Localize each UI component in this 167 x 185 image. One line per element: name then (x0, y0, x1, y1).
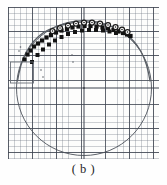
figure-panel: ( b ) (0, 0, 167, 185)
data-marker-square (94, 28, 98, 32)
data-marker-square (28, 48, 32, 52)
data-marker-circle-dot (59, 27, 61, 29)
data-marker-square (114, 31, 118, 35)
region-of-interest (11, 62, 34, 83)
data-marker-circle-dot (52, 30, 54, 32)
data-marker-dot (72, 61, 74, 63)
data-marker-square (101, 29, 105, 33)
data-marker-dot (40, 69, 42, 71)
data-marker-square (66, 32, 70, 36)
data-marker-square (47, 43, 51, 47)
data-marker-circle-dot (121, 29, 123, 31)
data-marker-square (41, 48, 45, 52)
data-marker-circle-dot (91, 22, 93, 24)
data-marker-square (60, 35, 64, 39)
data-marker-square (22, 57, 26, 61)
data-marker-square (32, 44, 36, 48)
data-marker-circle-dot (115, 26, 117, 28)
data-marker-dot (18, 50, 20, 52)
circle-center (83, 87, 85, 89)
data-marker-circle-dot (99, 23, 101, 25)
data-marker-dot (71, 54, 73, 56)
data-marker-circle-dot (83, 22, 85, 24)
figure-caption: ( b ) (0, 162, 167, 177)
data-marker-square (40, 38, 44, 42)
data-marker-square (108, 30, 112, 34)
data-marker-square (87, 28, 91, 32)
data-marker-circle-dot (75, 23, 77, 25)
data-marker-square (73, 30, 77, 34)
data-marker-circle-dot (67, 25, 69, 27)
data-marker-dot (20, 46, 22, 48)
plot-graphics (8, 7, 159, 159)
data-marker-circle-dot (107, 24, 109, 26)
data-marker-square (80, 29, 84, 33)
plot-svg (8, 7, 159, 159)
caption-text: ( b ) (72, 162, 95, 177)
data-marker-square (53, 39, 57, 43)
data-marker-dot (42, 76, 44, 78)
data-marker-circle-dot (127, 31, 129, 33)
plot-area (8, 7, 159, 159)
data-marker-square (25, 52, 29, 56)
data-marker-square (36, 53, 40, 57)
data-marker-square (36, 41, 40, 45)
data-marker-square (44, 35, 48, 39)
